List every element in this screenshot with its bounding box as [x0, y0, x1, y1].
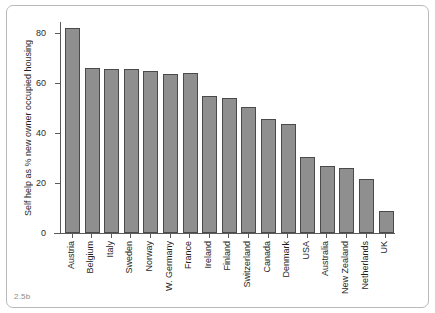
category-label: Finland [223, 241, 232, 271]
category-label: USA [302, 241, 311, 260]
x-tick [150, 234, 151, 238]
category-label: Austria [67, 241, 76, 269]
y-tick-40: 40 [55, 133, 60, 134]
bar [300, 157, 315, 233]
x-tick [91, 234, 92, 238]
figure-container: Self help as % new owner occupied housin… [0, 0, 435, 313]
x-tick [307, 234, 308, 238]
bar [124, 69, 139, 233]
category-label: Belgium [86, 241, 95, 274]
x-axis-line [54, 233, 395, 234]
y-tick-label: 0 [41, 229, 46, 238]
category-label: UK [380, 241, 389, 254]
y-tick-label: 20 [36, 179, 46, 188]
x-tick [326, 234, 327, 238]
plot-area: 020406080 AustriaBelgiumItalySwedenNorwa… [60, 22, 395, 233]
x-tick [72, 234, 73, 238]
category-label: Norway [145, 241, 154, 272]
bar [65, 28, 80, 233]
x-tick [209, 234, 210, 238]
category-label: Sweden [125, 241, 134, 274]
y-tick-label: 40 [36, 129, 46, 138]
y-tick-20: 20 [55, 183, 60, 184]
x-tick [111, 234, 112, 238]
x-tick [268, 234, 269, 238]
y-tick-label: 80 [36, 29, 46, 38]
bar [359, 179, 374, 233]
category-label: Australia [321, 241, 330, 276]
x-tick [346, 234, 347, 238]
x-tick [248, 234, 249, 238]
bar [222, 98, 237, 233]
x-tick [189, 234, 190, 238]
category-label: New Zealand [341, 241, 350, 294]
x-tick [130, 234, 131, 238]
category-label: W. Germany [165, 241, 174, 291]
x-tick [287, 234, 288, 238]
bar [104, 69, 119, 233]
category-label: France [184, 241, 193, 269]
bar [379, 211, 394, 234]
bar [261, 119, 276, 233]
bar [320, 166, 335, 234]
y-axis-label: Self help as % new owner occupied housin… [24, 22, 33, 233]
bar [143, 71, 158, 234]
figure-number: 2.5b [14, 292, 30, 301]
bar [183, 73, 198, 233]
bar [241, 107, 256, 233]
category-label: Canada [263, 241, 272, 273]
bar [339, 168, 354, 233]
bar [85, 68, 100, 233]
y-tick-80: 80 [55, 33, 60, 34]
x-tick [385, 234, 386, 238]
category-label: Ireland [204, 241, 213, 269]
category-label: Switzerland [243, 241, 252, 288]
bar [281, 124, 296, 233]
bar-series [61, 22, 395, 233]
x-tick [366, 234, 367, 238]
x-tick [170, 234, 171, 238]
category-label: Netherlands [361, 241, 370, 290]
x-tick [228, 234, 229, 238]
category-label: Italy [106, 241, 115, 258]
y-tick-60: 60 [55, 83, 60, 84]
y-tick-label: 60 [36, 79, 46, 88]
bar [163, 74, 178, 233]
y-tick-0: 0 [55, 233, 60, 234]
category-label: Denmark [282, 241, 291, 278]
bar [202, 96, 217, 234]
